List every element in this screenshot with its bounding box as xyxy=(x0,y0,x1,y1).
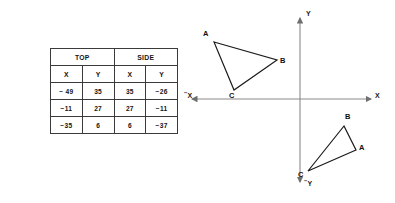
axes-and-triangles xyxy=(0,0,395,203)
y-negative-letter: Y xyxy=(308,180,313,187)
diagram-canvas: TOP SIDE X Y X Y − 49 35 35 −26 −11 27 2… xyxy=(0,0,395,203)
lower-right-triangle xyxy=(308,126,356,171)
x-axis-negative-label: −X xyxy=(184,92,192,99)
y-axis-positive-label: Y xyxy=(306,10,311,17)
upper-left-triangle xyxy=(214,42,277,90)
vertex-label-t2-a: A xyxy=(359,143,364,152)
x-axis-positive-label: X xyxy=(375,92,380,99)
vertex-label-t1-b: B xyxy=(280,56,285,65)
vertex-label-t2-b: B xyxy=(345,112,350,121)
vertex-label-t2-c: C xyxy=(298,170,303,179)
vertex-label-t1-c: C xyxy=(229,91,234,100)
y-axis-negative-label: −Y xyxy=(304,180,312,187)
x-negative-letter: X xyxy=(188,92,193,99)
vertex-label-t1-a: A xyxy=(203,29,208,38)
